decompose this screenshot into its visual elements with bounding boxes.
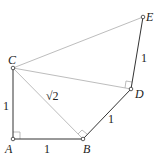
length-DE: 1 bbox=[141, 51, 147, 65]
segment-BD bbox=[83, 89, 131, 139]
label-A: A bbox=[4, 142, 13, 156]
point-E bbox=[141, 15, 145, 19]
geometry-diagram: A B C D E 1 1 1 1 √2 bbox=[0, 0, 161, 161]
label-C: C bbox=[8, 53, 17, 67]
label-E: E bbox=[145, 10, 154, 24]
point-D bbox=[129, 87, 133, 91]
length-AC: 1 bbox=[3, 99, 9, 113]
point-A bbox=[11, 137, 15, 141]
length-AB: 1 bbox=[44, 142, 50, 156]
label-D: D bbox=[134, 87, 144, 101]
length-BD: 1 bbox=[108, 112, 114, 126]
label-B: B bbox=[83, 142, 91, 156]
right-angle-B bbox=[78, 130, 87, 134]
point-B bbox=[81, 137, 85, 141]
length-CB: √2 bbox=[46, 89, 59, 103]
segment-CE bbox=[13, 17, 143, 68]
